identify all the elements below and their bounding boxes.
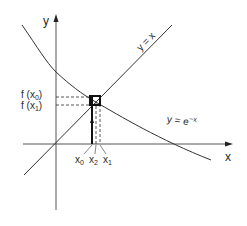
vertical-guides <box>96 101 100 144</box>
identity-line <box>24 25 172 175</box>
x-tick-leaders <box>84 145 106 154</box>
y-tick-f-x0-base: f (x <box>21 89 35 100</box>
y-tick-f-x1: f (x1) <box>21 101 42 112</box>
y-tick-f-x1-close: ) <box>39 100 42 111</box>
x-tick-x1-sub: 1 <box>108 159 112 166</box>
exp-decay-curve <box>22 25 211 160</box>
x-tick-x2-sub: 2 <box>94 159 98 166</box>
y-axis <box>54 14 59 210</box>
x-axis-label: x <box>225 151 231 163</box>
x-tick-x1: x1 <box>103 155 112 166</box>
iteration-arrow-icon <box>90 117 94 123</box>
y-axis-label: y <box>43 15 49 27</box>
x-axis-arrow-icon <box>225 142 233 147</box>
fixed-point-diagram <box>0 0 247 226</box>
x-tick-x0-sub: 0 <box>80 159 84 166</box>
y-axis-arrow-icon <box>54 14 59 22</box>
y-tick-f-x1-base: f (x <box>21 100 35 111</box>
exp-curve-label-exponent: −x <box>189 115 197 123</box>
y-tick-f-x0-close: ) <box>39 89 42 100</box>
x-tick-x2: x2 <box>89 155 98 166</box>
x-tick-x0: x0 <box>75 155 84 166</box>
